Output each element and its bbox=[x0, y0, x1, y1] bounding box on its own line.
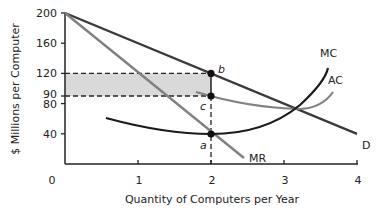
y-tick-label-40: 40 bbox=[43, 128, 57, 141]
x-tick-label-3: 3 bbox=[282, 174, 289, 187]
point-c bbox=[207, 92, 214, 99]
curve-label-mc: MC bbox=[320, 47, 337, 60]
y-tick-label-80: 80 bbox=[43, 98, 57, 111]
point-label-c: c bbox=[200, 100, 206, 113]
x-tick-label-2: 2 bbox=[209, 174, 216, 187]
y-tick-label-120: 120 bbox=[36, 67, 57, 80]
curve-label-mr: MR bbox=[249, 152, 266, 165]
x-tick-label-4: 4 bbox=[355, 174, 362, 187]
y-axis-title: $ Millions per Computer bbox=[9, 23, 22, 155]
point-label-b: b bbox=[218, 63, 225, 76]
origin-label: 0 bbox=[49, 174, 56, 187]
x-axis-title: Quantity of Computers per Year bbox=[125, 193, 300, 206]
monopoly-profit-chart: 200 160 120 90 80 40 0 1 2 3 4 Quantity … bbox=[0, 0, 378, 211]
point-a bbox=[207, 130, 214, 137]
point-label-a: a bbox=[200, 139, 207, 152]
curve-label-ac: AC bbox=[328, 74, 343, 87]
y-tick-label-200: 200 bbox=[36, 7, 57, 20]
curve-label-d: D bbox=[362, 139, 370, 152]
x-tick-label-1: 1 bbox=[136, 174, 143, 187]
profit-area bbox=[65, 73, 211, 96]
y-tick-label-160: 160 bbox=[36, 37, 57, 50]
point-b bbox=[207, 70, 214, 77]
